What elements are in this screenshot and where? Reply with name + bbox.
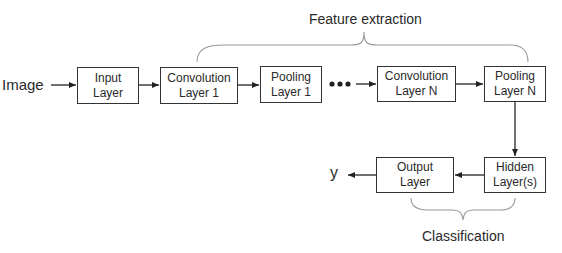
- node-label: Hidden: [496, 160, 534, 175]
- node-label: Layer: [400, 175, 430, 190]
- node-convolution-layer-1: Convolution Layer 1: [160, 67, 238, 104]
- image-input-label: Image: [2, 76, 44, 93]
- node-pooling-layer-1: Pooling Layer 1: [260, 66, 322, 103]
- classification-brace: [411, 198, 515, 220]
- node-label: Layer(s): [493, 175, 537, 190]
- node-label: Pooling: [271, 70, 311, 85]
- classification-label: Classification: [422, 228, 504, 244]
- node-label: Layer N: [494, 84, 536, 99]
- node-label: Convolution: [385, 69, 448, 84]
- feature-extraction-brace: [197, 32, 528, 62]
- node-label: Layer N: [395, 84, 437, 99]
- node-pooling-layer-n: Pooling Layer N: [484, 66, 546, 102]
- ellipsis-dots: [329, 81, 350, 86]
- node-label: Convolution: [167, 71, 230, 86]
- node-hidden-layers: Hidden Layer(s): [484, 157, 546, 193]
- node-input-layer: Input Layer: [77, 67, 139, 104]
- y-output-label: y: [330, 164, 338, 182]
- connectors: [0, 0, 562, 253]
- node-label: Layer: [93, 86, 123, 101]
- node-output-layer: Output Layer: [376, 157, 454, 193]
- node-label: Layer 1: [179, 86, 219, 101]
- feature-extraction-label: Feature extraction: [309, 11, 422, 27]
- node-label: Output: [397, 160, 433, 175]
- node-convolution-layer-n: Convolution Layer N: [377, 66, 456, 102]
- node-label: Layer 1: [271, 85, 311, 100]
- node-label: Pooling: [495, 69, 535, 84]
- node-label: Input: [95, 71, 122, 86]
